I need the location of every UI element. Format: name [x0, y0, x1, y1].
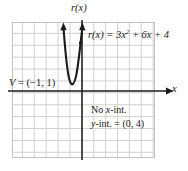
yint-value: -int. = (0, 4) [95, 118, 144, 129]
equation-label: r(x) = 3x2 + 6x + 4 [88, 30, 169, 41]
graph-figure: r(x) r(x) = 3x2 + 6x + 4 V = (−1, 1) x N… [0, 0, 188, 171]
no-xint-suffix: -int. [110, 104, 126, 115]
vertex-label: V = (−1, 1) [9, 78, 55, 89]
y-intercept-note: y-int. = (0, 4) [91, 119, 144, 129]
curve-label-top: r(x) [71, 3, 87, 14]
x-axis-label: x [172, 84, 177, 95]
equation-rhs: + 6x + 4 [129, 29, 169, 40]
vertex-coordinates: = (−1, 1) [15, 77, 55, 88]
no-x-intercept-note: No x-int. [91, 105, 127, 115]
equation-lhs: r(x) = 3 [88, 29, 121, 40]
no-xint-prefix: No [91, 104, 106, 115]
